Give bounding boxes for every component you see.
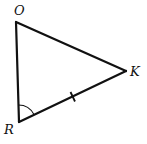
- label-K: K: [129, 64, 141, 79]
- triangle-diagram: O K R: [0, 0, 147, 144]
- side-OK: [16, 22, 126, 71]
- side-RO: [16, 22, 19, 122]
- label-O: O: [14, 3, 25, 18]
- label-R: R: [3, 122, 14, 137]
- angle-arc-R: [19, 105, 35, 115]
